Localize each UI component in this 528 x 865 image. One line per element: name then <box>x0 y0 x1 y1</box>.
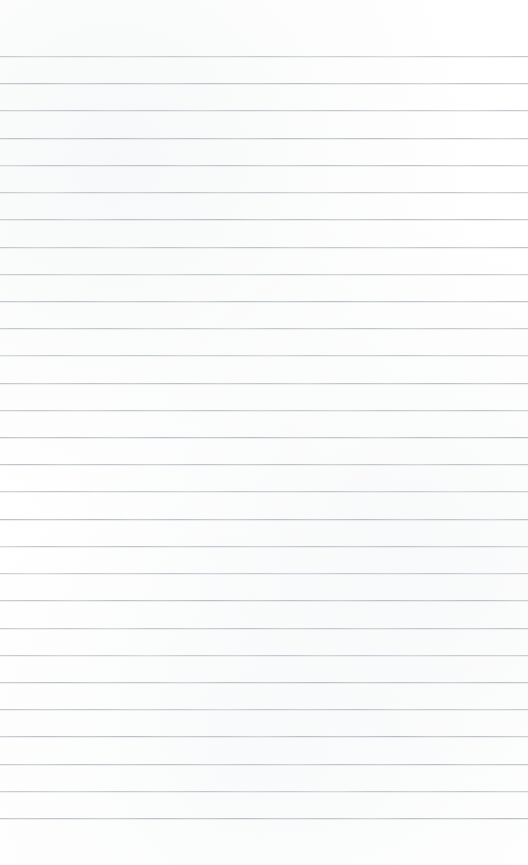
rule-line <box>0 628 528 629</box>
rule-line <box>0 383 528 384</box>
rule-line <box>0 655 528 656</box>
rule-line <box>0 682 528 683</box>
rule-line <box>0 791 528 792</box>
rule-line <box>0 736 528 737</box>
rule-line <box>0 410 528 411</box>
rule-line <box>0 709 528 710</box>
rule-line <box>0 219 528 220</box>
rule-line <box>0 464 528 465</box>
rule-line <box>0 301 528 302</box>
rule-line <box>0 437 528 438</box>
lined-paper-page <box>0 0 528 865</box>
rule-line <box>0 546 528 547</box>
rule-line <box>0 56 528 57</box>
ruled-lines-area <box>0 0 528 865</box>
rule-line <box>0 110 528 111</box>
rule-line <box>0 764 528 765</box>
rule-line <box>0 328 528 329</box>
rule-line <box>0 247 528 248</box>
rule-line <box>0 274 528 275</box>
rule-line <box>0 491 528 492</box>
rule-line <box>0 165 528 166</box>
rule-line <box>0 83 528 84</box>
rule-line <box>0 192 528 193</box>
rule-line <box>0 519 528 520</box>
rule-line <box>0 573 528 574</box>
rule-line <box>0 355 528 356</box>
rule-line <box>0 138 528 139</box>
rule-line <box>0 600 528 601</box>
bottom-margin-band <box>0 819 528 865</box>
